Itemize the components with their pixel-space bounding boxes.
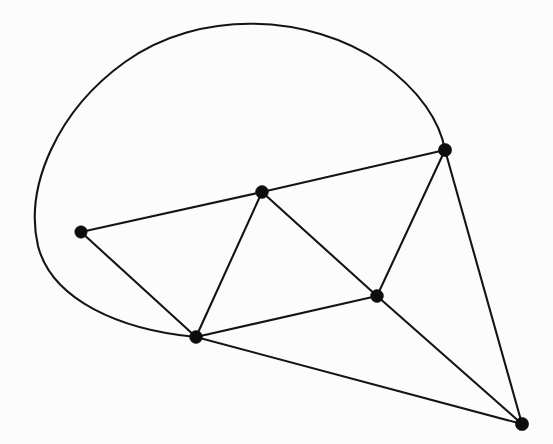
graph-edge-CD: [377, 150, 445, 296]
graph-vertex-E: [190, 331, 203, 344]
edge-layer: [35, 24, 522, 424]
graph-edge-BD: [262, 192, 377, 296]
vertex-layer: [75, 143, 529, 430]
graph-edge-AE: [81, 232, 196, 337]
graph-vertex-A: [75, 226, 87, 238]
graph-drawing-canvas: [0, 0, 553, 444]
graph-edge-DE: [196, 296, 377, 337]
graph-edge-BE: [196, 192, 262, 337]
figure-root: [0, 0, 553, 444]
graph-vertex-D: [371, 290, 384, 303]
graph-edge-curved-EC: [35, 24, 445, 337]
graph-edge-CF: [445, 150, 522, 424]
graph-vertex-B: [256, 186, 269, 199]
graph-vertex-F: [515, 417, 528, 430]
graph-edge-BC: [262, 150, 445, 192]
graph-vertex-C: [438, 143, 451, 156]
graph-edge-AB: [81, 192, 262, 232]
